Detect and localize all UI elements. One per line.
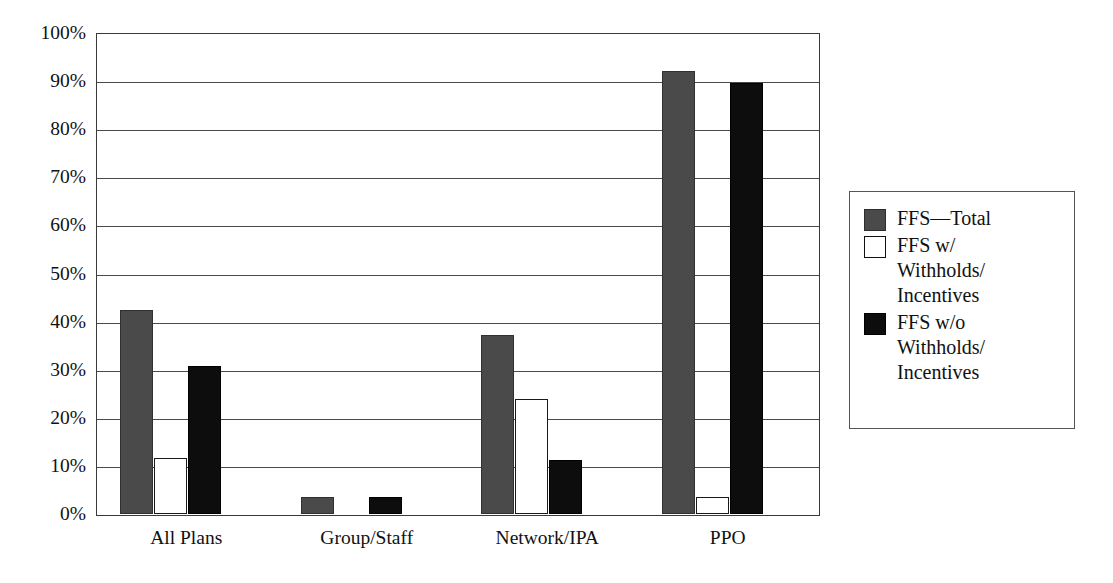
bars-layer xyxy=(96,33,818,514)
bar xyxy=(662,71,695,514)
y-axis-tick-label: 50% xyxy=(0,264,86,284)
y-axis-tick-label: 40% xyxy=(0,312,86,332)
x-axis-tick-labels: All PlansGroup/StaffNetwork/IPAPPO xyxy=(96,523,818,557)
legend-item-label: FFS w/ Withholds/ Incentives xyxy=(897,233,985,308)
bar-group-group-staff xyxy=(277,33,458,514)
bar xyxy=(549,460,582,514)
y-axis-tick-label: 90% xyxy=(0,71,86,91)
bar xyxy=(730,83,763,514)
y-axis-tick-label: 10% xyxy=(0,456,86,476)
bar-group-ppo xyxy=(638,33,819,514)
bar xyxy=(154,458,187,514)
bar xyxy=(301,497,334,514)
legend-item: FFS—Total xyxy=(864,206,1064,231)
legend-item: FFS w/o Withholds/ Incentives xyxy=(864,310,1064,385)
bar-group-network-ipa xyxy=(457,33,638,514)
x-axis-tick-label: Network/IPA xyxy=(457,523,638,557)
y-axis-tick-label: 0% xyxy=(0,504,86,524)
y-axis-tick-label: 60% xyxy=(0,215,86,235)
y-axis-tick-label: 100% xyxy=(0,23,86,43)
bar-group-all-plans xyxy=(96,33,277,514)
legend-item-label: FFS w/o Withholds/ Incentives xyxy=(897,310,985,385)
x-axis-tick-label: PPO xyxy=(638,523,819,557)
legend-swatch-icon xyxy=(864,236,886,258)
bar xyxy=(188,366,221,514)
bar xyxy=(515,399,548,514)
bar-chart-figure: 0%10%20%30%40%50%60%70%80%90%100% All Pl… xyxy=(0,0,1113,583)
x-axis-tick-label: All Plans xyxy=(96,523,277,557)
legend-swatch-icon xyxy=(864,209,886,231)
y-axis-tick-label: 80% xyxy=(0,119,86,139)
x-axis-tick-label: Group/Staff xyxy=(277,523,458,557)
bar xyxy=(369,497,402,514)
bar xyxy=(696,497,729,514)
y-axis-tick-label: 30% xyxy=(0,360,86,380)
legend-swatch-icon xyxy=(864,313,886,335)
y-axis-tick-label: 20% xyxy=(0,408,86,428)
legend-item: FFS w/ Withholds/ Incentives xyxy=(864,233,1064,308)
bar xyxy=(481,335,514,514)
legend-item-label: FFS—Total xyxy=(897,206,991,231)
legend: FFS—TotalFFS w/ Withholds/ IncentivesFFS… xyxy=(849,191,1075,429)
bar xyxy=(120,310,153,514)
y-axis-tick-label: 70% xyxy=(0,167,86,187)
